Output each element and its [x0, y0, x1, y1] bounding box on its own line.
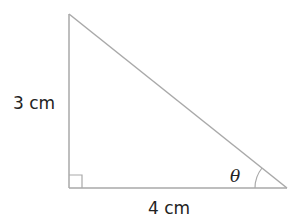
hypotenuse: [69, 14, 287, 188]
right-angle-marker: [69, 175, 82, 188]
horizontal-side-label: 4 cm: [148, 198, 190, 218]
vertical-side-label: 3 cm: [13, 93, 55, 113]
angle-arc: [255, 168, 262, 188]
angle-theta-label: θ: [230, 166, 240, 186]
right-triangle-diagram: 3 cm 4 cm θ: [0, 0, 306, 220]
